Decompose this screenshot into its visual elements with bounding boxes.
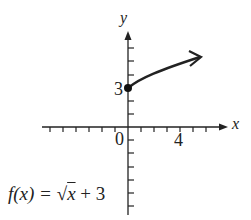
radical-icon: √ — [57, 183, 67, 204]
x-axis-label: x — [232, 116, 239, 132]
origin-label: 0 — [115, 130, 124, 148]
y-tick-label-3: 3 — [114, 80, 123, 98]
func-suffix: + 3 — [76, 183, 106, 204]
x-tick-label-4: 4 — [174, 131, 183, 149]
x-axis-arrow-icon — [219, 124, 228, 131]
start-point — [124, 84, 132, 92]
function-curve — [128, 57, 200, 88]
func-prefix: f(x) = — [8, 183, 57, 204]
y-axis-arrow-icon — [125, 31, 132, 40]
y-axis-label: y — [120, 10, 127, 26]
func-variable: x — [67, 183, 75, 204]
function-label: f(x) = √x + 3 — [8, 184, 105, 203]
